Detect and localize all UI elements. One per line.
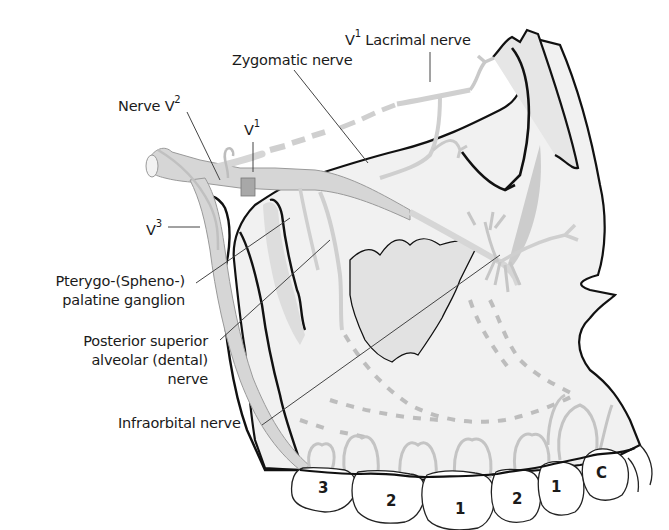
label-lacrimal-nerve: V1 Lacrimal nerve [345,26,471,50]
label-zygomatic-nerve: Zygomatic nerve [232,51,352,70]
label-nerve-v2: Nerve V2 [118,92,181,116]
tooth-label-second-molar: 2 [386,492,396,510]
anatomy-diagram [0,0,669,530]
tooth-incisor-edge [628,445,652,492]
tooth-label-canine: C [596,464,607,482]
tooth-label-first-premolar: 1 [551,478,561,496]
label-v3: V3 [146,216,162,240]
label-infraorbital-nerve: Infraorbital nerve [118,414,241,433]
tooth-label-third-molar: 3 [318,479,328,497]
tooth-label-first-molar: 1 [455,500,465,518]
tooth-label-second-premolar: 2 [512,490,522,508]
label-v1: V1 [244,116,260,140]
label-posterior-superior-alveolar-nerve: Posterior superior alveolar (dental) ner… [83,332,208,389]
label-pterygopalatine-ganglion: Pterygo-(Spheno-) palatine ganglion [56,272,185,310]
